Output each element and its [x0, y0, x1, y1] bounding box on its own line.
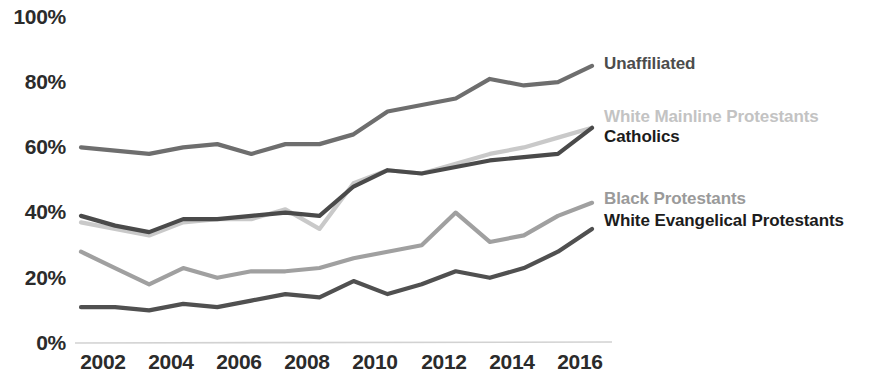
x-tick-2002: 2002 — [80, 351, 126, 372]
series-label-unaffiliated: Unaffiliated — [604, 55, 695, 73]
series-label-catholics: Catholics — [604, 128, 680, 146]
x-tick-2014: 2014 — [489, 351, 535, 372]
x-tick-2012: 2012 — [421, 351, 467, 372]
x-tick-2010: 2010 — [352, 351, 398, 372]
line-chart: 100% 80% 60% 40% 20% 0% 2002 2004 2006 2… — [0, 0, 895, 380]
x-tick-2008: 2008 — [284, 351, 330, 372]
series-label-white-evangelical-protestants: White Evangelical Protestants — [604, 212, 844, 230]
series-label-black-protestants: Black Protestants — [604, 190, 746, 208]
x-tick-2006: 2006 — [216, 351, 262, 372]
x-axis: 2002 2004 2006 2008 2010 2012 2014 2016 — [0, 0, 895, 380]
x-tick-2004: 2004 — [148, 351, 194, 372]
series-label-white-mainline-protestants: White Mainline Protestants — [604, 108, 819, 126]
x-tick-2016: 2016 — [557, 351, 603, 372]
